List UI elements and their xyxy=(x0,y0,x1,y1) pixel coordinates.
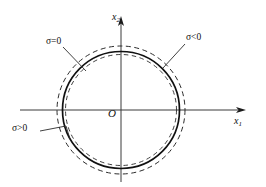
leader-line-sigma-negative xyxy=(163,44,185,68)
x-axis xyxy=(20,107,246,113)
annotation-sigma-zero: σ=0 xyxy=(46,37,61,47)
annotation-sigma-negative: σ<0 xyxy=(186,33,201,43)
x-axis-label-subscript: 1 xyxy=(238,120,242,128)
y-axis-label-subscript: 2 xyxy=(116,16,120,24)
y-axis xyxy=(118,16,124,182)
leader-line-sigma-positive xyxy=(40,126,66,131)
figure-canvas xyxy=(0,0,266,187)
annotation-sigma-positive: σ>0 xyxy=(12,124,27,134)
y-axis-label: x2 xyxy=(112,12,120,24)
origin-label: O xyxy=(108,108,116,119)
x-axis-label: x1 xyxy=(234,116,242,128)
yield-surface-figure: x2 x1 O σ=0 σ<0 σ>0 xyxy=(0,0,266,187)
